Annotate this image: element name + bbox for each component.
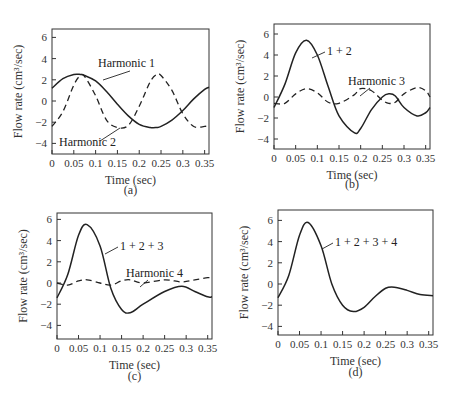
panel-b: 00.050.10.150.20.250.30.356420−2−4Time (… — [233, 24, 436, 191]
y-tick-label: 6 — [47, 213, 53, 225]
y-tick-label: −2 — [261, 299, 273, 311]
series-annotation: Harmonic 3 — [348, 74, 405, 88]
x-tick-label: 0.3 — [179, 342, 193, 354]
x-tick-label: 0.25 — [376, 338, 396, 350]
annotation-leader — [360, 88, 370, 96]
panel-caption: (c) — [128, 369, 141, 383]
x-tick-label: 0.05 — [69, 342, 89, 354]
panel-a: 00.050.10.150.20.250.30.356420−2−4Time (… — [11, 29, 215, 197]
y-tick-label: −4 — [40, 319, 52, 331]
x-tick-label: 0.15 — [108, 157, 128, 169]
x-tick-label: 0.3 — [176, 157, 190, 169]
y-tick-label: 4 — [264, 49, 270, 61]
y-tick-label: 2 — [268, 257, 274, 269]
annotation-leader — [103, 71, 130, 80]
y-tick-label: 0 — [47, 277, 53, 289]
x-tick-label: 0 — [49, 157, 55, 169]
y-tick-label: 2 — [42, 74, 48, 86]
x-tick-label: 0.1 — [314, 338, 328, 350]
y-tick-label: −4 — [261, 320, 273, 332]
x-tick-label: 0.05 — [286, 152, 306, 164]
y-tick-label: 0 — [42, 95, 48, 107]
y-tick-label: 6 — [42, 31, 48, 43]
y-axis-label: Flow rate (cm³/sec) — [11, 45, 25, 139]
x-tick-label: 0.1 — [93, 342, 107, 354]
x-tick-label: 0.15 — [333, 338, 353, 350]
figure: 00.050.10.150.20.250.30.356420−2−4Time (… — [0, 0, 458, 404]
annotation-leader — [140, 280, 148, 287]
series-line — [52, 74, 209, 129]
y-tick-label: −2 — [40, 298, 52, 310]
x-tick-label: 0.05 — [64, 157, 84, 169]
x-tick-label: 0.2 — [357, 338, 371, 350]
y-axis-label: Flow rate (cm³/sec) — [233, 40, 247, 134]
panel-caption: (b) — [345, 177, 359, 191]
series-line — [274, 87, 430, 104]
x-tick-label: 0 — [271, 152, 277, 164]
y-tick-label: −2 — [257, 112, 269, 124]
y-tick-label: 0 — [264, 91, 270, 103]
y-tick-label: 2 — [47, 256, 53, 268]
series-annotation: Harmonic 4 — [126, 266, 183, 280]
x-tick-label: 0 — [54, 342, 60, 354]
y-axis-label: Flow rate (cm³/sec) — [16, 229, 30, 323]
series-annotation: Harmonic 2 — [59, 135, 116, 149]
annotation-leader — [322, 243, 333, 249]
y-tick-label: 4 — [268, 236, 274, 248]
y-axis-label: Flow rate (cm³/sec) — [237, 226, 251, 320]
x-tick-label: 0.1 — [310, 152, 324, 164]
y-tick-label: 6 — [268, 214, 274, 226]
x-tick-label: 0.25 — [155, 342, 175, 354]
series-annotation: Harmonic 1 — [98, 56, 155, 70]
x-tick-label: 0.15 — [112, 342, 132, 354]
x-tick-label: 0.3 — [397, 152, 411, 164]
x-tick-label: 0.1 — [89, 157, 103, 169]
x-tick-label: 0.35 — [198, 342, 218, 354]
series-annotation: 1 + 2 + 3 + 4 — [335, 235, 397, 249]
annotation-leader — [105, 247, 118, 254]
y-tick-label: 6 — [264, 28, 270, 40]
x-tick-label: 0.35 — [416, 152, 436, 164]
y-tick-label: 0 — [268, 278, 274, 290]
x-tick-label: 0 — [275, 338, 281, 350]
y-tick-label: 4 — [47, 235, 53, 247]
x-tick-label: 0.25 — [373, 152, 393, 164]
x-tick-label: 0.2 — [354, 152, 368, 164]
series-annotation: 1 + 2 + 3 — [120, 239, 164, 253]
x-tick-label: 0.2 — [132, 157, 146, 169]
y-tick-label: 2 — [264, 70, 270, 82]
y-tick-label: −4 — [35, 137, 47, 149]
series-annotation: 1 + 2 — [327, 44, 352, 58]
panel-c: 00.050.10.150.20.250.30.356420−2−4Time (… — [16, 213, 218, 383]
x-tick-label: 0.3 — [400, 338, 414, 350]
y-tick-label: −2 — [35, 116, 47, 128]
x-tick-label: 0.05 — [290, 338, 310, 350]
x-tick-label: 0.35 — [195, 157, 215, 169]
x-tick-label: 0.25 — [151, 157, 171, 169]
panel-d: 00.050.10.150.20.250.30.356420−2−4Time (… — [237, 210, 439, 379]
y-tick-label: −4 — [257, 133, 269, 145]
x-tick-label: 0.15 — [329, 152, 349, 164]
y-tick-label: 4 — [42, 53, 48, 65]
panel-caption: (a) — [124, 183, 137, 197]
x-tick-label: 0.2 — [136, 342, 150, 354]
x-tick-label: 0.35 — [419, 338, 439, 350]
panel-caption: (d) — [349, 365, 363, 379]
